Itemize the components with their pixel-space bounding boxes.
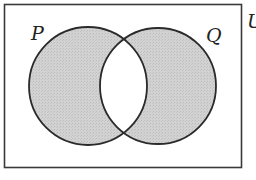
universal-set-label: U — [247, 10, 256, 32]
set-p-label: P — [30, 22, 45, 44]
set-q-label: Q — [206, 24, 222, 46]
venn-diagram: P Q U — [0, 0, 256, 180]
